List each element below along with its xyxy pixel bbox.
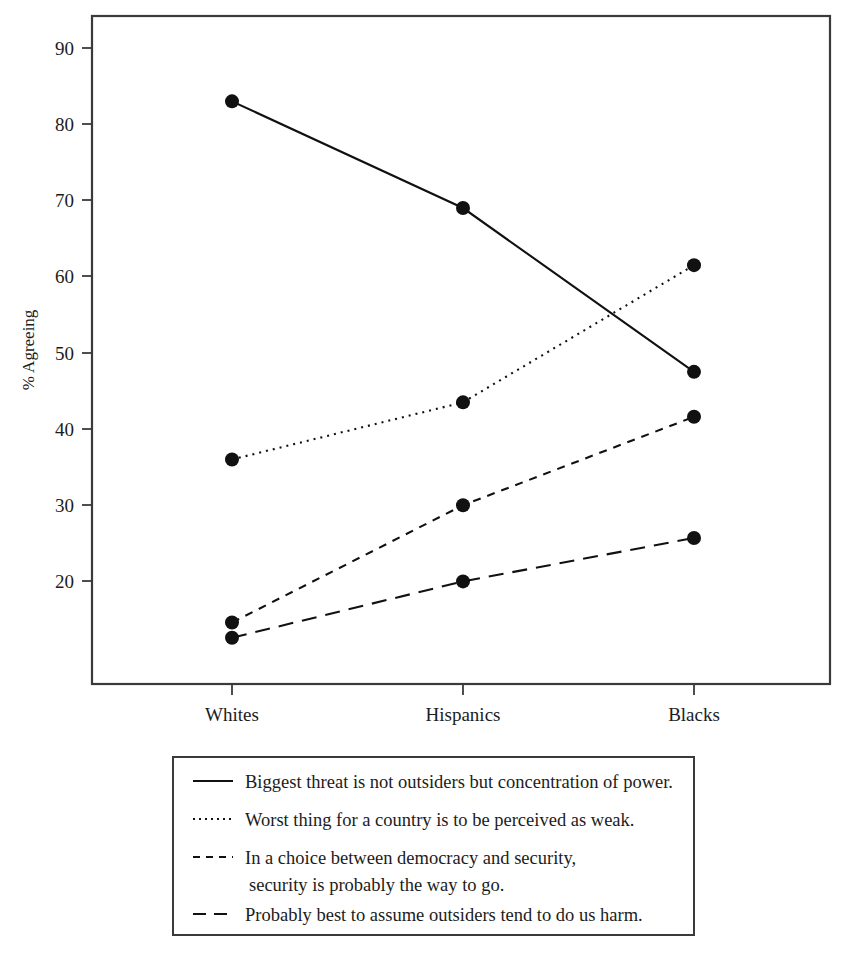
data-point-s2-hispanics	[456, 395, 470, 409]
legend-label-3: In a choice between democracy and securi…	[245, 848, 576, 868]
data-point-s4-hispanics	[456, 574, 470, 588]
data-point-s3-whites	[225, 616, 239, 630]
y-tick-label-70: 70	[55, 190, 74, 211]
legend-label-1: Biggest threat is not outsiders but conc…	[245, 772, 673, 792]
data-point-s2-whites	[225, 452, 239, 466]
data-point-s1-whites	[225, 94, 239, 108]
chart-figure: 90 80 70 60 50 40 30 20 % Agreeing White…	[0, 0, 844, 971]
x-tick-label-whites: Whites	[205, 704, 259, 725]
y-axis-title: % Agreeing	[19, 309, 38, 390]
legend-labels: Biggest threat is not outsiders but conc…	[245, 772, 673, 925]
legend-label-4: Probably best to assume outsiders tend t…	[245, 905, 643, 925]
series-line-3	[232, 417, 694, 623]
y-tick-label-30: 30	[55, 495, 74, 516]
series-line-2	[232, 265, 694, 459]
data-point-s4-whites	[225, 631, 239, 645]
y-tick-label-90: 90	[55, 38, 74, 59]
y-tick-label-80: 80	[55, 114, 74, 135]
y-tick-label-40: 40	[55, 419, 74, 440]
x-axis-tick-labels: Whites Hispanics Blacks	[205, 704, 720, 725]
x-tick-label-blacks: Blacks	[668, 704, 720, 725]
x-tick-label-hispanics: Hispanics	[426, 704, 501, 725]
data-point-s1-hispanics	[456, 201, 470, 215]
y-tick-label-20: 20	[55, 571, 74, 592]
data-point-s3-hispanics	[456, 498, 470, 512]
y-tick-label-50: 50	[55, 343, 74, 364]
data-series-layer	[225, 94, 701, 644]
y-tick-label-60: 60	[55, 266, 74, 287]
data-point-s2-blacks	[687, 258, 701, 272]
x-axis-ticks	[232, 684, 694, 695]
data-point-s4-blacks	[687, 531, 701, 545]
legend-swatches	[193, 781, 233, 914]
line-chart: 90 80 70 60 50 40 30 20 % Agreeing White…	[0, 0, 844, 971]
y-axis-tick-labels: 90 80 70 60 50 40 30 20	[55, 38, 74, 592]
legend-label-3-line2: security is probably the way to go.	[249, 875, 504, 895]
data-point-s3-blacks	[687, 410, 701, 424]
legend-label-2: Worst thing for a country is to be perce…	[245, 810, 634, 830]
y-axis-ticks	[82, 48, 92, 581]
data-point-s1-blacks	[687, 365, 701, 379]
series-line-1	[232, 101, 694, 372]
